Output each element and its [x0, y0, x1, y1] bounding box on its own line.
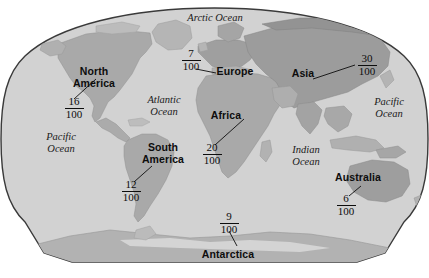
fraction-africa-denominator: 100: [199, 155, 225, 166]
ocean-label-pacific-east-line1: Pacific: [374, 96, 404, 107]
fraction-south-america: 12 100: [118, 179, 144, 203]
continent-label-north-america: North America: [59, 66, 129, 90]
ocean-label-indian-line1: Indian: [292, 144, 319, 155]
fraction-asia-denominator: 100: [354, 66, 380, 77]
fraction-south-america-numerator: 12: [118, 179, 144, 190]
continent-label-europe: Europe: [212, 66, 258, 77]
continent-label-europe-text: Europe: [217, 65, 254, 77]
ocean-label-pacific-west-line1: Pacific: [46, 131, 76, 142]
fraction-europe-numerator: 7: [178, 48, 204, 59]
ocean-label-pacific-west: Pacific Ocean: [31, 131, 91, 155]
fraction-australia-denominator: 100: [333, 206, 359, 217]
continent-label-north-america-line1: North: [80, 65, 109, 77]
continent-label-south-america-line2: America: [142, 153, 184, 165]
ocean-label-pacific-east: Pacific Ocean: [359, 96, 419, 120]
ocean-label-arctic-line1: Arctic Ocean: [187, 12, 242, 23]
continent-label-antarctica: Antarctica: [196, 249, 260, 260]
ocean-label-arctic: Arctic Ocean: [173, 13, 257, 24]
fraction-south-america-denominator: 100: [118, 192, 144, 203]
fraction-australia-numerator: 6: [333, 193, 359, 204]
continent-label-south-america-line1: South: [148, 141, 178, 153]
fraction-north-america: 16 100: [61, 96, 87, 120]
fraction-australia: 6 100: [333, 193, 359, 217]
continent-label-australia: Australia: [330, 172, 386, 183]
ocean-label-pacific-east-line2: Ocean: [375, 108, 402, 119]
fraction-antarctica-numerator: 9: [216, 211, 242, 222]
fraction-north-america-denominator: 100: [61, 109, 87, 120]
ocean-label-pacific-west-line2: Ocean: [47, 143, 74, 154]
continent-label-africa-text: Africa: [211, 109, 241, 121]
ocean-label-indian-line2: Ocean: [292, 156, 319, 167]
continent-label-australia-text: Australia: [335, 171, 381, 183]
continent-label-asia-text: Asia: [292, 67, 315, 79]
continent-label-south-america: South America: [128, 142, 198, 166]
continent-label-north-america-line2: America: [73, 77, 115, 89]
continent-label-asia: Asia: [286, 68, 320, 79]
world-map-figure: Arctic Ocean Atlantic Ocean Pacific Ocea…: [0, 0, 429, 278]
ocean-label-atlantic: Atlantic Ocean: [133, 94, 195, 118]
continent-label-africa: Africa: [203, 110, 249, 121]
fraction-africa: 20 100: [199, 142, 225, 166]
fraction-north-america-numerator: 16: [61, 96, 87, 107]
fraction-antarctica: 9 100: [216, 211, 242, 235]
fraction-asia: 30 100: [354, 53, 380, 77]
fraction-antarctica-denominator: 100: [216, 224, 242, 235]
ocean-label-indian: Indian Ocean: [277, 144, 335, 168]
ocean-label-atlantic-line1: Atlantic: [147, 94, 180, 105]
fraction-europe-denominator: 100: [178, 61, 204, 72]
ocean-label-atlantic-line2: Ocean: [150, 106, 177, 117]
fraction-africa-numerator: 20: [199, 142, 225, 153]
continent-label-antarctica-text: Antarctica: [202, 248, 254, 260]
fraction-europe: 7 100: [178, 48, 204, 72]
fraction-asia-numerator: 30: [354, 53, 380, 64]
